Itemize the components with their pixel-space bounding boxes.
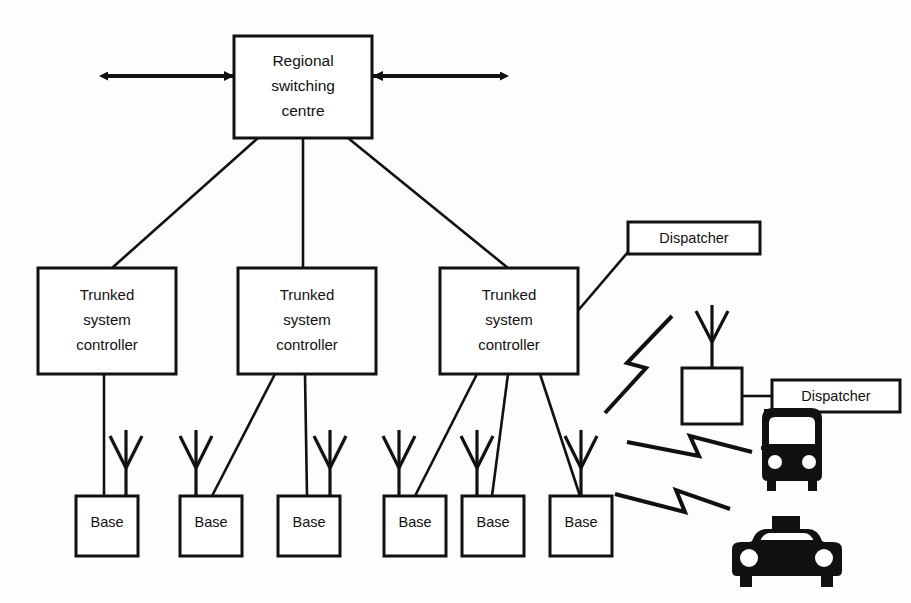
trunk-arrow-right [372, 71, 500, 81]
dispatcher-wired-label: Dispatcher [659, 230, 728, 246]
link-c3-base-4 [415, 374, 477, 496]
regional-switching-centre-line3: centre [281, 102, 324, 119]
remote-base-unit[interactable] [682, 305, 742, 424]
base-3-label: Base [292, 514, 325, 530]
base-station-6[interactable]: Base [550, 496, 612, 556]
base-station-5[interactable]: Base [462, 496, 524, 556]
controller-1-line3: controller [76, 336, 138, 353]
trunked-system-controller-1[interactable]: Trunked system controller [38, 268, 176, 374]
base-2-label: Base [194, 514, 227, 530]
regional-switching-centre-line2: switching [271, 77, 335, 94]
arrow-head-inner-right [372, 71, 383, 81]
base-4-label: Base [398, 514, 431, 530]
controller-1-line2: system [83, 311, 131, 328]
controller-1-line1: Trunked [80, 286, 134, 303]
base-1-label: Base [90, 514, 123, 530]
regional-switching-centre-line1: Regional [272, 52, 333, 69]
antenna-icon-remote [696, 305, 728, 368]
base-6-label: Base [564, 514, 597, 530]
base-station-2[interactable]: Base [180, 496, 242, 556]
antenna-icon-3 [314, 430, 346, 496]
controller-2-line1: Trunked [280, 286, 334, 303]
rf-link-bus [627, 436, 752, 456]
link-rsc-controller-1 [112, 138, 258, 268]
taxi-icon [732, 516, 842, 587]
rf-link-taxi [615, 490, 730, 512]
regional-switching-centre[interactable]: Regional switching centre [234, 36, 372, 138]
controller-3-line3: controller [478, 336, 540, 353]
access-links [104, 374, 580, 496]
trunk-links [112, 138, 508, 268]
rf-link-dispatcher [605, 316, 672, 413]
base-station-3[interactable]: Base [278, 496, 340, 556]
link-c2-base-3 [305, 374, 307, 496]
lightning-bolt-icon-2 [627, 436, 752, 456]
dispatcher-remote[interactable]: Dispatcher [772, 380, 900, 412]
diagram-canvas: Regional switching centre Trunked system… [0, 0, 911, 603]
dispatcher-remote-label: Dispatcher [801, 388, 870, 404]
remote-base-unit-box[interactable] [682, 368, 742, 424]
link-c2-base-2 [212, 374, 275, 496]
controller-3-line2: system [485, 311, 533, 328]
antenna-icon-2 [180, 430, 212, 496]
lightning-bolt-icon-1 [605, 316, 672, 413]
trunked-system-controller-2[interactable]: Trunked system controller [238, 268, 376, 374]
lightning-bolt-icon-3 [615, 490, 730, 512]
trunked-system-controller-3[interactable]: Trunked system controller [440, 268, 578, 374]
antenna-icon-4 [383, 430, 415, 496]
base-station-1[interactable]: Base [76, 496, 138, 556]
base-station-4[interactable]: Base [384, 496, 446, 556]
controller-2-line3: controller [276, 336, 338, 353]
antenna-icon-1 [110, 430, 142, 496]
controller-2-line2: system [283, 311, 331, 328]
link-c3-base-6 [540, 374, 580, 496]
dispatcher-wired[interactable]: Dispatcher [628, 222, 760, 254]
network-diagram: Regional switching centre Trunked system… [0, 0, 911, 603]
trunk-arrow-left [108, 71, 234, 81]
link-rsc-controller-3 [348, 138, 508, 268]
antenna-icon-5 [461, 430, 493, 496]
link-c3-base-5 [492, 374, 508, 496]
base-5-label: Base [476, 514, 509, 530]
base-antennas [110, 430, 597, 496]
bus-icon [761, 408, 822, 491]
controller-3-line1: Trunked [482, 286, 536, 303]
